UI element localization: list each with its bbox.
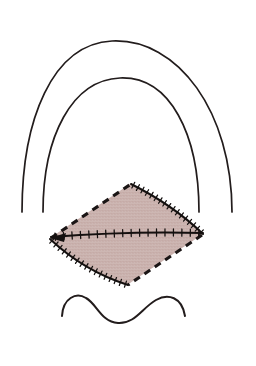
figure-root (0, 0, 256, 366)
diagram-background (0, 0, 256, 366)
rhomboid-flap-diagram (0, 0, 256, 366)
